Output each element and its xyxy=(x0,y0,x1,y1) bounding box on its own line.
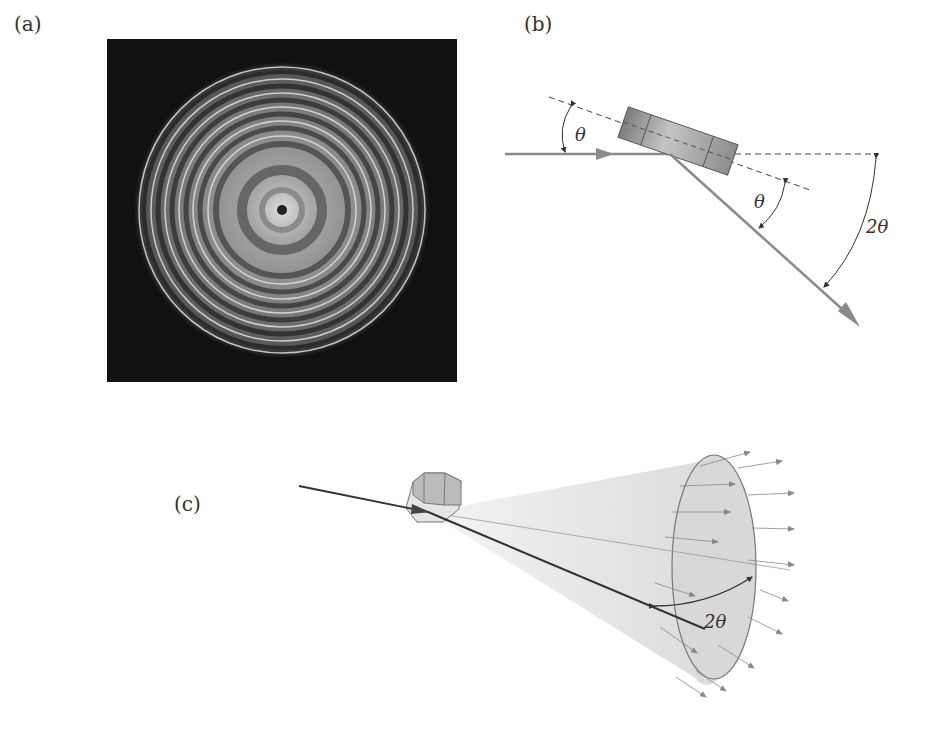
panel-b-bragg-diagram: θ θ 2θ xyxy=(505,97,888,327)
two-theta-label: 2θ xyxy=(865,216,888,237)
crystal-slab xyxy=(618,107,738,175)
cone-base-ellipse xyxy=(672,455,756,679)
panel-a-ring-pattern xyxy=(107,39,457,382)
panel-c-diffraction-cone: 2θ xyxy=(299,452,794,697)
reflected-beam xyxy=(670,154,852,318)
theta-arc-incident xyxy=(562,106,571,152)
center-beam-stop xyxy=(277,205,287,215)
incident-arrow-icon xyxy=(596,148,614,160)
theta-label-incident: θ xyxy=(575,124,586,145)
theta-label-reflected: θ xyxy=(754,191,765,212)
figure-canvas: θ θ 2θ xyxy=(0,0,937,730)
cone-angle-label: 2θ xyxy=(703,611,726,632)
reflected-arrow-icon xyxy=(838,302,860,327)
